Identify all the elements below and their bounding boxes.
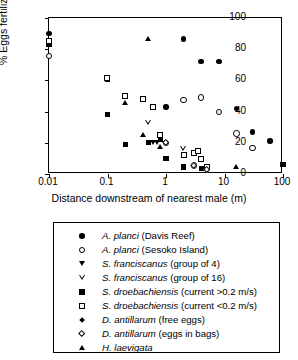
plot-area [48,17,282,173]
legend-item: H. laevigata [54,341,281,355]
filled-up-triangle-icon [157,144,163,149]
legend-detail: (free eggs) [156,314,205,325]
filled-up-triangle-icon [140,132,146,137]
open-square-icon [198,156,204,162]
legend-detail: (group of 4) [168,258,220,269]
legend-detail: (current <0.2 m/s) [178,300,257,311]
filled-circle-icon [250,129,256,135]
filled-circle-icon [181,36,187,42]
open-circle-icon [249,145,255,151]
open-diamond-icon [78,330,86,338]
y-tick [45,18,49,19]
open-square-icon [140,96,146,102]
filled-diamond-icon [79,317,85,323]
x-axis-label: Distance downstream of nearest male (m) [0,192,298,204]
filled-circle-icon [267,138,273,144]
open-circle-icon [46,53,52,59]
filled-square-icon [79,289,84,294]
legend-detail: (Davis Reef) [139,230,195,241]
open-down-triangle-icon [145,120,151,125]
legend-item: S. franciscanus (group of 4) [54,257,281,271]
legend-item: D. antillarum (eggs in bags) [54,327,281,341]
legend-label: D. antillarum (eggs in bags) [102,327,219,341]
legend-detail: (current >0.2 m/s) [178,286,257,297]
filled-circle-icon [198,59,204,65]
x-tick-label: 1 [145,177,185,187]
open-square-icon [150,104,156,110]
legend-label: D. antillarum (free eggs) [102,313,205,327]
y-tick [45,80,49,81]
filled-square-icon [123,142,128,147]
x-tick-label: 10 [204,177,244,187]
y-tick [45,49,49,50]
fertilization-scatter-figure: % Eggs fertilized 020406080100 0.010.111… [0,0,298,360]
filled-circle-icon [216,59,222,65]
legend-species-name: S. franciscanus [102,258,168,269]
y-tick-label: 20 [220,137,246,147]
filled-up-triangle-icon [145,36,151,41]
x-tick-label: 100 [262,177,298,187]
legend-label: S. droebachiensis (current <0.2 m/s) [102,299,257,313]
y-tick-label: 100 [220,12,246,22]
open-circle-icon [198,94,204,100]
filled-square-icon [280,162,285,167]
open-down-triangle-icon [79,275,85,280]
legend-item: S. droebachiensis (current <0.2 m/s) [54,299,281,313]
y-tick [45,143,49,144]
open-square-icon [181,152,187,158]
legend-species-name: A. planci [102,230,139,241]
open-square-icon [46,38,52,44]
y-axis-label-wrap: % Eggs fertilized [8,18,22,168]
legend-label: S. franciscanus (group of 16) [102,271,225,285]
y-tick-label: 60 [220,74,246,84]
legend-species-name: S. droebachiensis [102,300,178,311]
legend-label: S. franciscanus (group of 4) [102,257,220,271]
legend-item: A. planci (Sesoko Island) [54,243,281,257]
y-tick [45,112,49,113]
legend-box: A. planci (Davis Reef)A. planci (Sesoko … [53,222,280,353]
open-square-icon [104,75,110,81]
legend-item: S. droebachiensis (current >0.2 m/s) [54,285,281,299]
legend-item: D. antillarum (free eggs) [54,313,281,327]
filled-square-icon [163,156,168,161]
filled-circle-icon [46,31,52,37]
filled-square-icon [181,164,186,169]
filled-up-triangle-icon [79,345,85,350]
open-down-triangle-icon [180,146,186,151]
legend-species-name: H. laevigata [102,342,153,353]
legend-species-name: A. planci [102,244,139,255]
filled-up-triangle-icon [122,100,128,105]
open-circle-icon [180,97,186,103]
filled-down-triangle-icon [79,261,85,266]
open-square-icon [122,93,128,99]
legend-species-name: D. antillarum [102,328,156,339]
y-tick-label: 40 [220,106,246,116]
open-square-icon [195,148,201,154]
legend-detail: (Sesoko Island) [139,244,208,255]
legend-item: S. franciscanus (group of 16) [54,271,281,285]
open-circle-icon [79,247,85,253]
filled-square-icon [105,112,110,117]
legend-label: A. planci (Sesoko Island) [102,243,208,257]
open-square-icon [157,132,163,138]
legend-detail: (group of 16) [168,272,226,283]
legend-label: S. droebachiensis (current >0.2 m/s) [102,285,257,299]
legend-species-name: D. antillarum [102,314,156,325]
x-tick-label: 0.1 [87,177,127,187]
legend-item: A. planci (Davis Reef) [54,229,281,243]
legend-detail: (eggs in bags) [156,328,219,339]
x-tick-label: 0.01 [28,177,68,187]
y-axis-label: % Eggs fertilized [0,0,9,65]
legend-species-name: S. franciscanus [102,272,168,283]
filled-circle-icon [79,233,85,239]
open-square-icon [79,303,85,309]
legend-species-name: S. droebachiensis [102,286,178,297]
legend-label: A. planci (Davis Reef) [102,229,195,243]
filled-square-icon [146,140,151,145]
y-tick-label: 80 [220,43,246,53]
legend-label: H. laevigata [102,341,153,355]
